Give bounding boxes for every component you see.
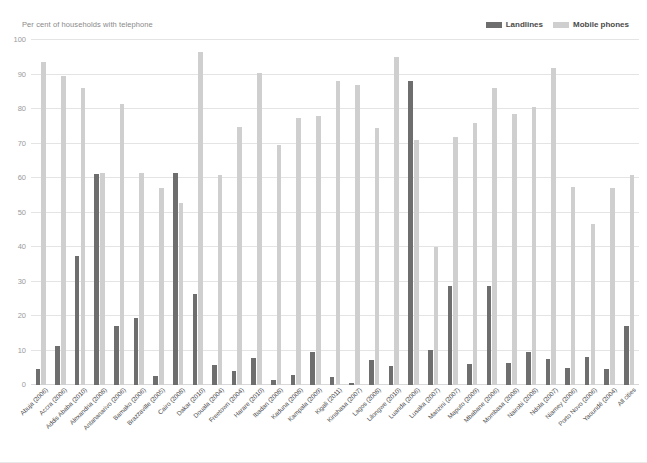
bar-group[interactable] (619, 40, 639, 385)
bar-mobile-phones[interactable] (355, 85, 360, 385)
bar-mobile-phones[interactable] (512, 114, 517, 385)
bar-mobile-phones[interactable] (159, 188, 164, 385)
bar-group[interactable] (561, 40, 581, 385)
bar-group[interactable] (541, 40, 561, 385)
bar-landlines[interactable] (330, 377, 335, 385)
bar-landlines[interactable] (36, 369, 41, 385)
bar-landlines[interactable] (251, 358, 256, 385)
bar-mobile-phones[interactable] (120, 104, 125, 385)
bar-mobile-phones[interactable] (316, 116, 321, 385)
bar-landlines[interactable] (75, 256, 80, 385)
bar-mobile-phones[interactable] (61, 76, 66, 385)
bar-landlines[interactable] (153, 376, 158, 385)
bar-landlines[interactable] (389, 366, 394, 385)
legend-item-mobile-phones[interactable]: Mobile phones (553, 20, 629, 29)
bar-landlines[interactable] (134, 318, 139, 385)
bar-mobile-phones[interactable] (375, 128, 380, 385)
bar-group[interactable] (227, 40, 247, 385)
bar-landlines[interactable] (94, 174, 99, 385)
bar-group[interactable] (443, 40, 463, 385)
bar-landlines[interactable] (173, 173, 178, 385)
bar-group[interactable] (580, 40, 600, 385)
bar-landlines[interactable] (487, 286, 492, 385)
bar-landlines[interactable] (271, 380, 276, 385)
bar-group[interactable] (208, 40, 228, 385)
bar-group[interactable] (502, 40, 522, 385)
bar-group[interactable] (51, 40, 71, 385)
bar-landlines[interactable] (585, 357, 590, 385)
bar-mobile-phones[interactable] (492, 88, 497, 385)
bar-group[interactable] (423, 40, 443, 385)
bar-mobile-phones[interactable] (198, 52, 203, 385)
bar-mobile-phones[interactable] (591, 224, 596, 385)
bar-landlines[interactable] (408, 81, 413, 385)
bar-mobile-phones[interactable] (532, 107, 537, 385)
bar-group[interactable] (70, 40, 90, 385)
bar-group[interactable] (188, 40, 208, 385)
bar-landlines[interactable] (448, 286, 453, 385)
bar-mobile-phones[interactable] (218, 175, 223, 385)
bar-group[interactable] (266, 40, 286, 385)
bar-group[interactable] (168, 40, 188, 385)
bar-group[interactable] (482, 40, 502, 385)
bar-group[interactable] (306, 40, 326, 385)
bar-mobile-phones[interactable] (394, 57, 399, 385)
bar-mobile-phones[interactable] (257, 73, 262, 385)
bar-group[interactable] (31, 40, 51, 385)
bar-group[interactable] (384, 40, 404, 385)
bar-landlines[interactable] (369, 360, 374, 385)
bar-group[interactable] (149, 40, 169, 385)
bar-group[interactable] (129, 40, 149, 385)
bar-landlines[interactable] (232, 371, 237, 385)
bar-mobile-phones[interactable] (630, 175, 635, 385)
bar-landlines[interactable] (467, 364, 472, 385)
bar-mobile-phones[interactable] (81, 88, 86, 385)
bar-group[interactable] (600, 40, 620, 385)
chart-legend: Landlines Mobile phones (486, 20, 629, 29)
bar-landlines[interactable] (114, 326, 119, 385)
y-axis-tick-20: 20 (18, 311, 26, 320)
bar-group[interactable] (462, 40, 482, 385)
bar-mobile-phones[interactable] (434, 247, 439, 385)
bar-landlines[interactable] (310, 352, 315, 385)
bar-landlines[interactable] (428, 350, 433, 385)
bar-series-container (31, 40, 639, 385)
bar-landlines[interactable] (565, 368, 570, 385)
bar-mobile-phones[interactable] (41, 62, 46, 385)
bar-group[interactable] (109, 40, 129, 385)
bar-mobile-phones[interactable] (336, 81, 341, 385)
bar-mobile-phones[interactable] (571, 187, 576, 385)
bar-landlines[interactable] (624, 326, 629, 385)
bar-landlines[interactable] (349, 383, 354, 385)
bar-landlines[interactable] (604, 369, 609, 385)
bar-group[interactable] (90, 40, 110, 385)
bar-landlines[interactable] (291, 375, 296, 385)
bar-group[interactable] (345, 40, 365, 385)
bar-group[interactable] (404, 40, 424, 385)
y-axis-tick-90: 90 (18, 69, 26, 78)
bar-group[interactable] (521, 40, 541, 385)
bar-mobile-phones[interactable] (296, 118, 301, 385)
bar-group[interactable] (286, 40, 306, 385)
legend-item-landlines[interactable]: Landlines (486, 20, 543, 29)
bar-mobile-phones[interactable] (473, 123, 478, 385)
bar-mobile-phones[interactable] (237, 127, 242, 385)
bar-mobile-phones[interactable] (277, 145, 282, 385)
bar-group[interactable] (247, 40, 267, 385)
bar-mobile-phones[interactable] (453, 137, 458, 385)
bar-mobile-phones[interactable] (414, 140, 419, 385)
bar-mobile-phones[interactable] (139, 173, 144, 385)
bar-mobile-phones[interactable] (610, 188, 615, 385)
bar-landlines[interactable] (526, 352, 531, 385)
bar-group[interactable] (325, 40, 345, 385)
bar-landlines[interactable] (55, 346, 60, 385)
bar-mobile-phones[interactable] (100, 173, 105, 385)
bar-landlines[interactable] (506, 363, 511, 385)
bar-group[interactable] (364, 40, 384, 385)
bar-landlines[interactable] (193, 294, 198, 385)
bar-landlines[interactable] (212, 365, 217, 385)
bar-mobile-phones[interactable] (551, 68, 556, 385)
y-axis-tick-30: 30 (18, 276, 26, 285)
bar-landlines[interactable] (546, 359, 551, 385)
bar-mobile-phones[interactable] (179, 203, 184, 385)
